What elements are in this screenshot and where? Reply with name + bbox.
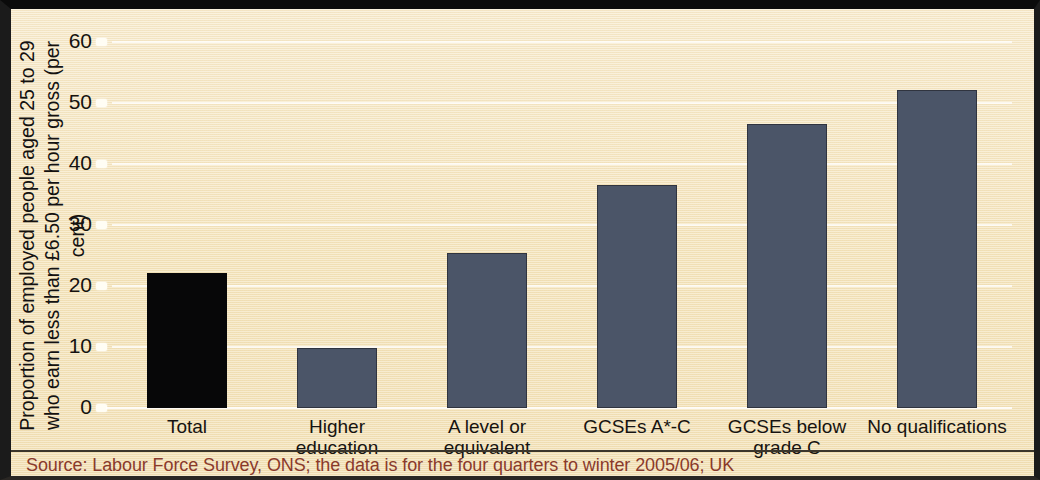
y-axis-tick-mark — [96, 160, 107, 168]
x-axis-category-label: Total — [112, 416, 262, 437]
x-axis-category-label: GCSEs A*-C — [562, 416, 712, 437]
y-axis-tick-value: 0 — [34, 395, 92, 419]
y-axis-tick-value: 10 — [34, 334, 92, 358]
bar — [147, 273, 227, 408]
bar — [597, 185, 677, 408]
x-axis-category-label: No qualifications — [862, 416, 1012, 437]
y-axis-tick-mark — [96, 99, 107, 107]
x-axis-category-line: grade C — [712, 437, 862, 458]
x-axis-category-line: No qualifications — [862, 416, 1012, 437]
y-axis-tick-value: 40 — [34, 151, 92, 175]
bar — [447, 253, 527, 408]
x-axis-category-line: Total — [112, 416, 262, 437]
y-axis-tick-mark — [96, 38, 107, 46]
x-axis-category-line: Higher — [262, 416, 412, 437]
bar-series — [112, 42, 1012, 408]
x-axis-category-line: A level or — [412, 416, 562, 437]
y-axis-tick-mark — [96, 343, 107, 351]
source-divider — [11, 450, 1034, 452]
x-axis-category-line: GCSEs below — [712, 416, 862, 437]
top-black-band — [0, 0, 1040, 9]
chart-figure: Proportion of employed people aged 25 to… — [0, 0, 1040, 480]
y-axis-tick-mark — [96, 282, 107, 290]
y-axis-tick-value: 50 — [34, 90, 92, 114]
plot-area: 0102030405060 — [112, 42, 1012, 408]
bar — [897, 90, 977, 408]
bar — [747, 124, 827, 408]
y-axis-tick-value: 20 — [34, 273, 92, 297]
y-axis-tick-value: 30 — [34, 212, 92, 236]
bar — [297, 348, 377, 408]
source-note: Source: Labour Force Survey, ONS; the da… — [26, 455, 734, 476]
y-axis-tick-value: 60 — [34, 29, 92, 53]
x-axis-category-line: GCSEs A*-C — [562, 416, 712, 437]
y-axis-tick-mark — [96, 221, 107, 229]
